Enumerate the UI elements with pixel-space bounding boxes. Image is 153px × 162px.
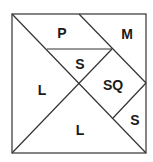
label-medium-triangle: M [121,26,133,42]
label-large-triangle-left: L [38,82,47,98]
label-square: SQ [103,77,123,93]
label-small-triangle-right: S [130,112,139,128]
label-parallelogram: P [57,25,66,41]
anti-diagonal [12,49,112,153]
tangram-diagram: P M S SQ L L S [0,0,153,162]
label-large-triangle-bottom: L [76,122,85,138]
label-small-triangle-top: S [75,56,84,72]
